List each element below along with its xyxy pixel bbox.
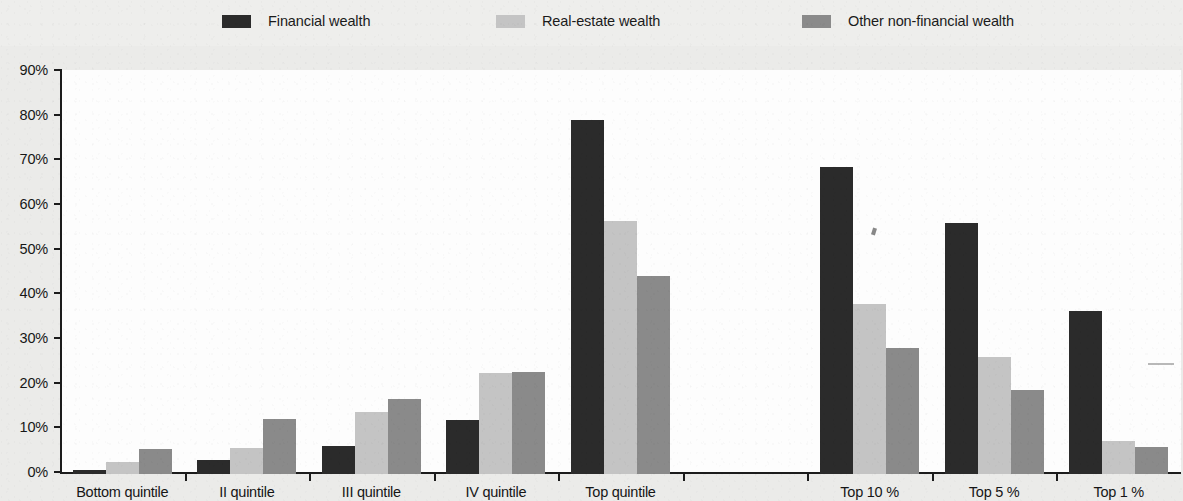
x-axis-tick-label: III quintile xyxy=(309,484,434,500)
y-axis-tick-label: 20% xyxy=(0,376,48,390)
x-axis-tick xyxy=(434,473,436,481)
legend-label-real-estate-wealth: Real-estate wealth xyxy=(542,13,660,29)
bar xyxy=(388,399,421,474)
y-axis-tick xyxy=(54,158,62,160)
x-axis-tick xyxy=(932,473,934,481)
bar-chart: 0%10%20%30%40%50%60%70%80%90% Bottom qui… xyxy=(0,46,1183,501)
bar xyxy=(322,446,355,474)
bar xyxy=(197,460,230,474)
bar-group xyxy=(446,70,545,474)
bar xyxy=(106,462,139,474)
x-axis-tick xyxy=(1056,473,1058,481)
bar xyxy=(446,420,479,474)
y-axis-line xyxy=(60,70,62,474)
y-axis-tick xyxy=(54,292,62,294)
bar xyxy=(886,348,919,474)
x-axis-tick-label: IV quintile xyxy=(434,484,559,500)
y-axis-tick-label: 0% xyxy=(0,465,48,479)
x-axis-tick-label: Top 1 % xyxy=(1056,484,1181,500)
bar xyxy=(1011,390,1044,474)
legend-swatch-financial-wealth xyxy=(222,15,251,28)
bar xyxy=(263,419,296,474)
legend-swatch-other-non-financial-wealth xyxy=(802,15,831,28)
x-axis-tick-label: Top 10 % xyxy=(807,484,932,500)
x-axis-tick xyxy=(683,473,685,481)
bar xyxy=(479,373,512,474)
y-axis-tick xyxy=(54,203,62,205)
y-axis-tick xyxy=(54,382,62,384)
legend-entry-other-non-financial-wealth: Other non-financial wealth xyxy=(802,12,1014,30)
x-axis-tick xyxy=(558,473,560,481)
y-axis-tick xyxy=(54,248,62,250)
chart-legend: Financial wealth Real-estate wealth Othe… xyxy=(0,0,1183,46)
bar xyxy=(230,448,263,474)
y-axis-tick xyxy=(54,471,62,473)
bar xyxy=(604,221,637,474)
bar-group xyxy=(696,70,795,474)
bar xyxy=(355,412,388,474)
y-axis-tick xyxy=(54,426,62,428)
bar-group xyxy=(820,70,919,474)
y-axis-tick-label: 30% xyxy=(0,331,48,345)
x-axis-tick xyxy=(807,473,809,481)
legend-entry-financial-wealth: Financial wealth xyxy=(222,12,370,30)
bar-group xyxy=(1069,70,1168,474)
legend-entry-real-estate-wealth: Real-estate wealth xyxy=(496,12,660,30)
bar xyxy=(571,120,604,474)
bar xyxy=(512,372,545,474)
scan-artifact-mark xyxy=(1148,363,1174,365)
y-axis-tick-label: 40% xyxy=(0,286,48,300)
y-axis-tick-label: 80% xyxy=(0,108,48,122)
bar-group xyxy=(322,70,421,474)
bar xyxy=(820,167,853,474)
legend-swatch-real-estate-wealth xyxy=(496,15,525,28)
bar-group xyxy=(945,70,1044,474)
legend-label-other-non-financial-wealth: Other non-financial wealth xyxy=(848,13,1014,29)
bar xyxy=(73,470,106,474)
bar xyxy=(1135,447,1168,474)
y-axis-tick-label: 10% xyxy=(0,420,48,434)
bar xyxy=(637,276,670,474)
bar-group xyxy=(73,70,172,474)
bar xyxy=(1102,441,1135,474)
y-axis-tick-label: 90% xyxy=(0,63,48,77)
bar-group xyxy=(571,70,670,474)
legend-label-financial-wealth: Financial wealth xyxy=(268,13,370,29)
bar xyxy=(978,357,1011,474)
y-axis-tick-label: 50% xyxy=(0,242,48,256)
x-axis-tick-label: Top quintile xyxy=(558,484,683,500)
bar xyxy=(945,223,978,474)
x-axis-tick-label: II quintile xyxy=(185,484,310,500)
x-axis-tick-label: Bottom quintile xyxy=(60,484,185,500)
x-axis-tick xyxy=(309,473,311,481)
y-axis-tick xyxy=(54,337,62,339)
y-axis-tick xyxy=(54,69,62,71)
bar xyxy=(853,304,886,474)
bar xyxy=(1069,311,1102,474)
x-axis-tick xyxy=(185,473,187,481)
bar-group xyxy=(197,70,296,474)
y-axis-tick xyxy=(54,114,62,116)
y-axis-tick-label: 60% xyxy=(0,197,48,211)
bar xyxy=(139,449,172,474)
y-axis-tick-label: 70% xyxy=(0,152,48,166)
x-axis-tick-label: Top 5 % xyxy=(932,484,1057,500)
